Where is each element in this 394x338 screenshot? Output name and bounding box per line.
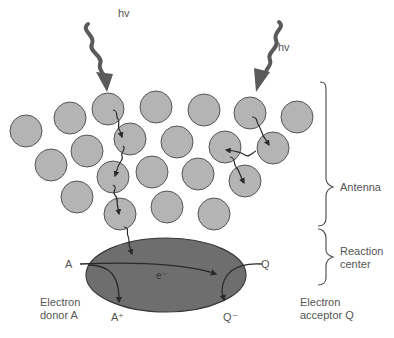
antenna-pigment-circle [104,198,136,230]
acceptor-caption-line2: acceptor Q [300,308,354,322]
reaction-center-label-2: center [340,257,371,271]
antenna-pigment-circle [10,115,42,147]
bracket-antenna [318,82,333,226]
photosynthesis-diagram: hv hv Antenna Reaction center A Q e⁻ A⁺ … [0,0,394,338]
photon-arrow-left [86,24,113,92]
reaction-center-label-1: Reaction [340,244,383,258]
antenna-pigment-circle [229,165,261,197]
oxidized-donor-label: A⁺ [111,310,124,324]
antenna-pigment-circle [136,156,168,188]
photon-label-right: hv [278,40,290,54]
antenna-pigment-circle [188,94,220,126]
antenna-pigments [10,91,313,230]
antenna-pigment-circle [61,181,93,213]
donor-caption-line1: Electron [40,295,80,309]
acceptor-caption-line1: Electron [300,295,340,309]
diagram-canvas [0,0,394,338]
antenna-pigment-circle [71,135,103,167]
antenna-pigment-circle [35,149,67,181]
antenna-label: Antenna [340,180,381,194]
donor-caption-line2: donor A [40,308,78,322]
antenna-pigment-circle [97,161,129,193]
acceptor-q-label: Q [261,257,270,271]
antenna-pigment-circle [182,158,214,190]
electron-label: e⁻ [156,269,167,283]
donor-a-label: A [65,257,72,271]
antenna-pigment-circle [151,191,183,223]
bracket-reaction-center [318,229,333,285]
antenna-pigment-circle [54,102,86,134]
antenna-pigment-circle [209,131,241,163]
antenna-pigment-circle [281,101,313,133]
antenna-pigment-circle [140,91,172,123]
antenna-pigment-circle [257,132,289,164]
antenna-pigment-circle [198,198,230,230]
antenna-pigment-circle [234,97,266,129]
antenna-pigment-circle [161,126,193,158]
photon-arrow-right [254,22,281,92]
reduced-acceptor-label: Q⁻ [223,310,238,324]
photon-label-left: hv [118,6,130,20]
